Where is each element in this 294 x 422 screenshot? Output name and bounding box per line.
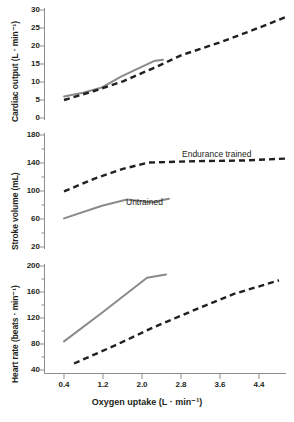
x-tick-label: 0.4 (49, 381, 79, 389)
y-axis-ticks (39, 266, 45, 370)
y-axis-ticks (39, 135, 45, 247)
x-axis-title: Oxygen uptake (L · min⁻¹) (0, 397, 294, 407)
series-annotation-endurance-trained: Endurance trained (182, 150, 251, 159)
plot-area-cardiac-output (0, 0, 294, 130)
x-tick-label: 2.0 (127, 381, 157, 389)
series-endurance-trained-line (74, 280, 279, 363)
y-axis-ticks (39, 10, 45, 118)
series-endurance-trained-line (64, 158, 289, 191)
x-tick-label: 3.6 (205, 381, 235, 389)
x-axis-ticks (64, 374, 259, 380)
axis-spines (45, 264, 287, 374)
series-untrained-line (64, 275, 166, 342)
panel-cardiac-output: Cardiac output (L · min⁻¹) 30 25 20 15 1… (0, 0, 294, 130)
x-tick-label: 2.8 (166, 381, 196, 389)
series-endurance-trained-line (64, 16, 288, 100)
series-untrained-line (64, 60, 163, 97)
series-annotation-untrained: Untrained (126, 198, 163, 207)
x-tick-label: 1.2 (88, 381, 118, 389)
panel-heart-rate: Heart rate (beats · min⁻¹) 200 160 120 8… (0, 260, 294, 422)
cardiovascular-response-figure: Cardiac output (L · min⁻¹) 30 25 20 15 1… (0, 0, 294, 422)
panel-stroke-volume: Stroke volume (mL) 180 140 100 60 20 (0, 130, 294, 260)
x-tick-label: 4.4 (244, 381, 274, 389)
